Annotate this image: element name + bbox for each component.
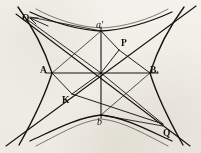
chord-A-to-a-prime — [52, 31, 101, 73]
chord-K-to-centre — [72, 73, 101, 94]
label-O: O — [22, 14, 29, 24]
label-Q: Q — [163, 129, 170, 139]
label-A: A — [40, 66, 47, 76]
chord-P-to-B — [119, 50, 150, 73]
figure-canvas: O a' P A B. K b Q — [0, 0, 201, 153]
chord-centre-to-O — [28, 20, 101, 73]
chord-a-prime-to-P — [101, 31, 119, 50]
label-K: K — [62, 96, 69, 106]
label-b: b — [97, 117, 102, 127]
label-B: B. — [150, 66, 159, 76]
chord-K-to-Q — [72, 94, 163, 124]
label-a-prime: a' — [96, 20, 103, 30]
chord-A-to-K — [52, 73, 72, 94]
label-P: P — [121, 39, 127, 49]
